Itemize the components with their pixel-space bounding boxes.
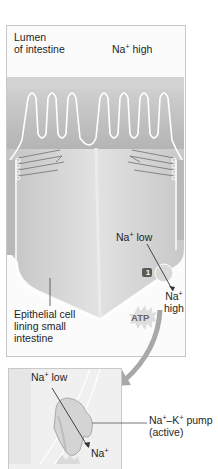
atp-label: ATP [131,312,149,324]
pump-na-low-label: Na+ low [31,371,67,383]
step-number: 1 [143,268,153,277]
cell-na-low-label: Na+ low [116,231,152,243]
lumen-label: Lumen of intestine [14,31,65,55]
lumen-na-high-label: Na+ high [112,43,152,55]
pump-na-out-label: Na+ [91,447,109,459]
pump-label: Na+–K+ pump (active) [149,414,213,438]
epithelial-cell-label: Epithelial cell lining small intestine [14,308,75,344]
exit-na-high-label: Na+ high [164,290,184,314]
